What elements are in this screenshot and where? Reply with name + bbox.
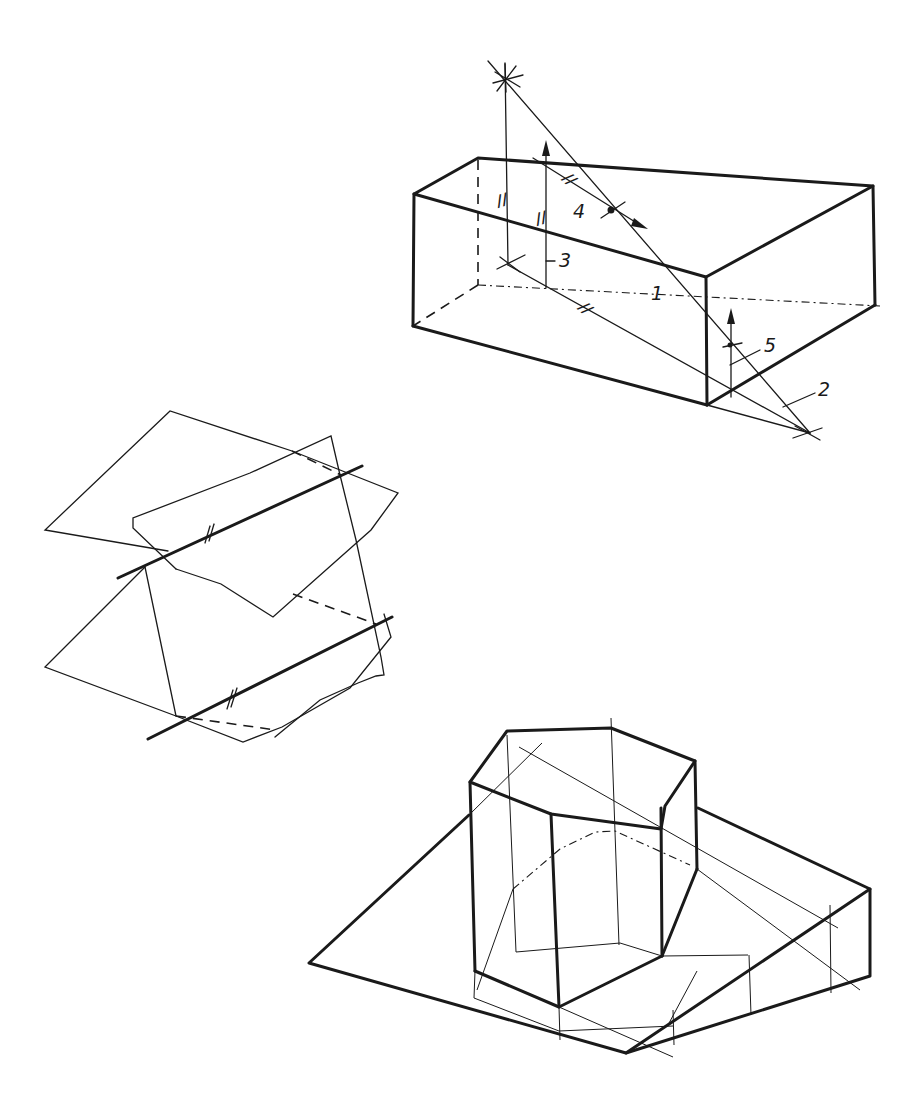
intersection-line-lower: [148, 617, 392, 739]
star-bottom-icon: [793, 426, 822, 440]
box-top-face: [414, 158, 873, 277]
box-front-left-edge: [413, 194, 414, 326]
hex-hidden-bottom: [516, 943, 662, 956]
drawing-canvas: [0, 0, 924, 1099]
leader-5: [730, 350, 760, 365]
hex-vertical-right: [661, 808, 662, 956]
hex-vertical-far-right: [695, 761, 697, 869]
point-5-dot: [728, 343, 733, 348]
label-line-3: 3: [559, 251, 571, 270]
arrow-up-5: [727, 308, 735, 324]
construction-diagonal: [519, 747, 838, 928]
base-plane-outline: [309, 808, 870, 1053]
label-point-5: 5: [764, 336, 776, 355]
box-front-bottom-edge: [413, 326, 707, 405]
line-to-corner: [707, 405, 810, 433]
box-hidden-back-bottom: [478, 285, 880, 306]
base-vertical-2: [749, 955, 751, 1015]
label-line-1: 1: [651, 284, 663, 303]
base-projection-line-4: [697, 869, 860, 990]
box-corner-edge: [706, 277, 707, 405]
construction-left-drop: [474, 971, 475, 998]
upper-plane-outline: [45, 411, 398, 617]
label-line-2: 2: [818, 380, 830, 399]
hex-edge-right-bottom: [662, 869, 697, 956]
planes-drawing: [45, 411, 398, 742]
hex-hidden-back-left: [507, 735, 516, 952]
cross-point-3-icon: [497, 255, 525, 272]
hex-vertical-front: [551, 814, 559, 1007]
label-point-4: 4: [573, 202, 585, 221]
box-drawing: [413, 61, 880, 440]
intersection-line-upper: [118, 466, 362, 578]
hex-projection-left: [477, 889, 513, 990]
tilted-plane-left-edge: [145, 567, 176, 716]
prism-drawing: [309, 718, 870, 1057]
hex-projection-right: [668, 971, 697, 1025]
lower-plane-outline: [45, 567, 391, 742]
upper-plane-hidden: [292, 451, 341, 475]
base-projection-line-1: [474, 998, 673, 1031]
point-4-dot: [608, 207, 615, 214]
hex-projection-section: [513, 831, 690, 889]
planes-hidden-mid: [293, 594, 376, 624]
base-projection-line-3: [662, 955, 748, 956]
hex-bottom-face: [475, 956, 662, 1007]
base-vertical-3: [830, 905, 831, 993]
arrow-right-4: [631, 218, 648, 229]
box-right-vertical-edge: [873, 186, 875, 305]
vertical-through-star: [505, 63, 508, 265]
arrow-up-3: [542, 140, 550, 156]
box-hidden-bottom-left: [413, 285, 478, 326]
star-top-icon: [493, 64, 523, 92]
leader-2: [783, 393, 815, 407]
construction-upper-diag: [469, 743, 542, 815]
